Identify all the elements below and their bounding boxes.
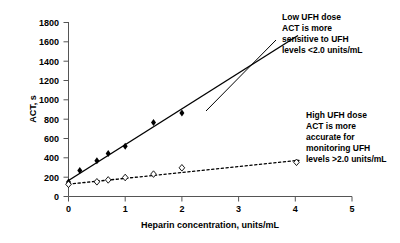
y-tick-label-0: 0 <box>54 192 59 202</box>
act-vs-heparin-scatter-chart: 1800 1600 1400 1200 1000 800 600 400 200… <box>0 0 400 243</box>
low-dose-annotation-line-4: levels <2.0 units/mL <box>282 45 363 55</box>
high-dose-annotation-line-3: accurate for <box>306 132 355 142</box>
high-dose-annotation-line-4: monitoring UFH <box>306 143 370 153</box>
low-dose-annotation-line-1: Low UFH dose <box>282 12 341 22</box>
x-axis-title: Heparin concentration, units/mL <box>141 220 280 230</box>
y-tick-label-400: 400 <box>44 153 59 163</box>
x-tick-label-1: 1 <box>123 204 128 214</box>
high-dose-annotation-line-5: levels >2.0 units/mL <box>306 154 387 164</box>
y-axis-title: ACT, s <box>28 95 38 123</box>
chart-container: 1800 1600 1400 1200 1000 800 600 400 200… <box>0 0 400 243</box>
y-tick-label-200: 200 <box>44 173 59 183</box>
y-tick-label-1400: 1400 <box>39 57 59 67</box>
y-tick-label-1600: 1600 <box>39 37 59 47</box>
y-tick-label-1200: 1200 <box>39 76 59 86</box>
low-dose-annotation-line-2: ACT is more <box>282 23 332 33</box>
y-tick-label-1000: 1000 <box>39 95 59 105</box>
x-tick-label-3: 3 <box>236 204 241 214</box>
y-tick-label-600: 600 <box>44 134 59 144</box>
low-dose-annotation-line-3: sensitive to UFH <box>282 34 349 44</box>
y-tick-label-800: 800 <box>44 115 59 125</box>
high-dose-annotation-line-2: ACT is more <box>306 121 356 131</box>
x-tick-label-0: 0 <box>66 204 71 214</box>
y-tick-label-1800: 1800 <box>39 18 59 28</box>
x-tick-label-2: 2 <box>179 204 184 214</box>
x-tick-label-4: 4 <box>293 204 298 214</box>
x-tick-label-5: 5 <box>349 204 354 214</box>
high-dose-annotation-line-1: High UFH dose <box>306 110 367 120</box>
